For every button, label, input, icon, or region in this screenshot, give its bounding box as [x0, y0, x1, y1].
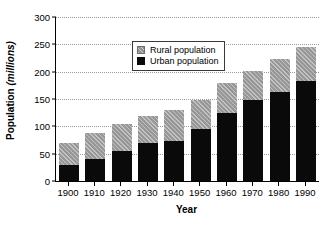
bar-1900 — [59, 17, 79, 181]
legend-item-urban: Urban population — [137, 56, 219, 66]
legend-swatch-rural-icon — [137, 46, 145, 54]
legend-label-urban: Urban population — [150, 57, 219, 66]
x-tick-mark — [199, 182, 200, 186]
bar-segment-rural — [270, 59, 290, 92]
x-tick-label: 1960 — [213, 187, 239, 198]
bar-segment-rural — [191, 100, 211, 129]
bar-1970 — [243, 17, 263, 181]
bar-segment-rural — [85, 133, 105, 159]
x-tick-1990: 1990 — [292, 182, 318, 198]
x-tick-label: 1940 — [160, 187, 186, 198]
x-tick-mark — [94, 182, 95, 186]
x-tick-1930: 1930 — [134, 182, 160, 198]
bar-segment-rural — [296, 47, 316, 81]
y-tick-label: 300 — [34, 12, 50, 23]
x-tick-mark — [226, 182, 227, 186]
bar-segment-urban — [296, 81, 316, 181]
y-tick-label: 100 — [34, 121, 50, 132]
x-tick-1950: 1950 — [187, 182, 213, 198]
bar-segment-urban — [191, 129, 211, 181]
bar-1920 — [112, 17, 132, 181]
x-tick-label: 1920 — [108, 187, 134, 198]
y-axis-title: Population (millions) — [5, 41, 16, 140]
x-tick-mark — [120, 182, 121, 186]
x-tick-label: 1910 — [81, 187, 107, 198]
y-tick-label: 200 — [34, 66, 50, 77]
x-tick-mark — [68, 182, 69, 186]
x-tick-label: 1950 — [187, 187, 213, 198]
y-tick-label: 150 — [34, 94, 50, 105]
x-tick-mark — [147, 182, 148, 186]
bar-segment-rural — [112, 124, 132, 151]
y-tick-label: 0 — [45, 176, 50, 187]
x-tick-1900: 1900 — [55, 182, 81, 198]
bar-segment-urban — [217, 113, 237, 181]
plot-area: 050100150200250300 Rural population Urba… — [55, 17, 319, 182]
bar-segment-urban — [243, 100, 263, 181]
population-stacked-bar-chart: Population (millions) 050100150200250300… — [0, 0, 333, 228]
x-tick-label: 1970 — [239, 187, 265, 198]
legend-item-rural: Rural population — [137, 45, 219, 55]
bar-segment-rural — [164, 110, 184, 141]
legend-label-rural: Rural population — [150, 46, 216, 55]
x-tick-1910: 1910 — [81, 182, 107, 198]
y-axis-title-container: Population (millions) — [0, 0, 20, 181]
y-axis-title-unit: (millions) — [5, 41, 16, 85]
x-tick-1960: 1960 — [213, 182, 239, 198]
bar-segment-urban — [138, 143, 158, 181]
bar-segment-urban — [112, 151, 132, 181]
x-axis-title: Year — [55, 204, 318, 215]
x-tick-1940: 1940 — [160, 182, 186, 198]
y-tick-label: 250 — [34, 39, 50, 50]
y-axis-title-text: Population — [5, 86, 16, 140]
bar-segment-urban — [164, 141, 184, 181]
x-axis-ticks: 1900191019201930194019501960197019801990 — [55, 182, 318, 198]
bar-segment-urban — [270, 92, 290, 181]
bar-segment-rural — [138, 116, 158, 143]
x-tick-1980: 1980 — [266, 182, 292, 198]
bar-1910 — [85, 17, 105, 181]
x-tick-mark — [278, 182, 279, 186]
x-tick-label: 1900 — [55, 187, 81, 198]
x-tick-1970: 1970 — [239, 182, 265, 198]
x-tick-mark — [305, 182, 306, 186]
chart-legend: Rural population Urban population — [132, 41, 225, 71]
y-tick-label: 50 — [39, 148, 50, 159]
bar-1990 — [296, 17, 316, 181]
x-tick-mark — [252, 182, 253, 186]
bar-segment-urban — [85, 159, 105, 181]
x-tick-label: 1990 — [292, 187, 318, 198]
x-tick-label: 1980 — [266, 187, 292, 198]
legend-swatch-urban-icon — [137, 57, 145, 65]
x-tick-label: 1930 — [134, 187, 160, 198]
x-tick-mark — [173, 182, 174, 186]
bar-segment-urban — [59, 165, 79, 181]
x-tick-1920: 1920 — [108, 182, 134, 198]
bar-segment-rural — [59, 143, 79, 165]
bar-1980 — [270, 17, 290, 181]
bar-segment-rural — [217, 83, 237, 113]
bar-segment-rural — [243, 71, 263, 100]
